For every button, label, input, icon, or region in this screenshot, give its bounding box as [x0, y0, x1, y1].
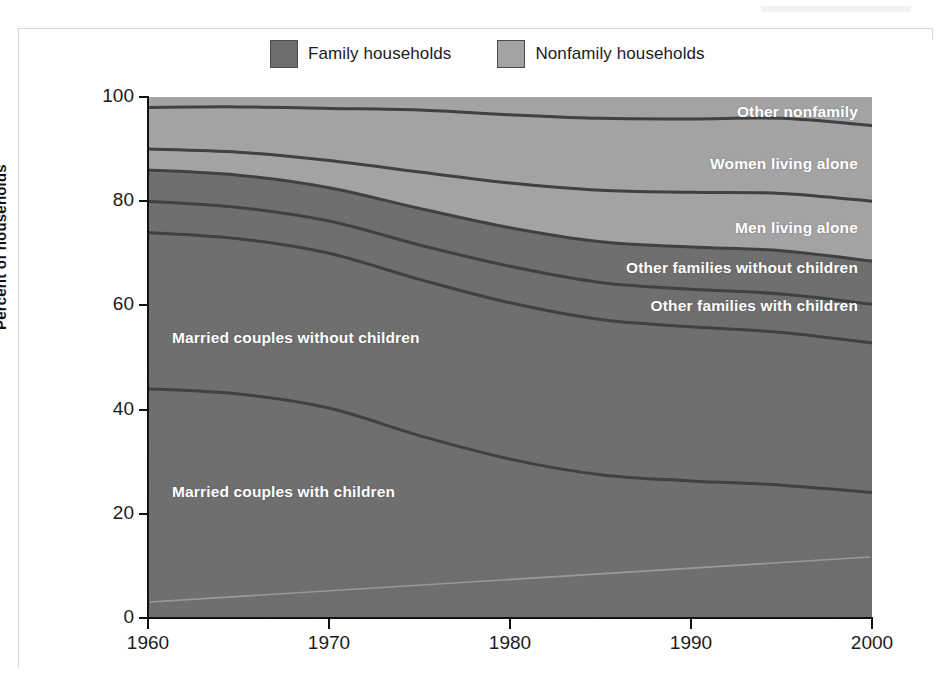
y-tick-80 [139, 200, 148, 202]
y-tick-20 [139, 513, 148, 515]
y-tick-label-100: 100 [82, 86, 134, 105]
label-women-living-alone: Women living alone [710, 155, 858, 173]
legend-label-family-households: Family households [308, 44, 451, 64]
y-tick-label-80: 80 [82, 190, 134, 209]
label-men-living-alone: Men living alone [735, 219, 858, 237]
x-tick-1960 [147, 619, 149, 629]
chart-plot-area [148, 97, 872, 618]
label-married-couples-without-children: Married couples without children [172, 329, 420, 347]
legend-item-nonfamily-households: Nonfamily households [497, 40, 704, 68]
x-tick-1980 [509, 619, 511, 629]
y-axis-title: Percent of households [0, 164, 9, 330]
scan-noise-overlay [148, 97, 872, 618]
label-other-families-with-children: Other families with children [651, 297, 858, 315]
y-tick-label-60: 60 [82, 294, 134, 313]
nonfamily-households-swatch [497, 40, 525, 68]
x-tick-label-2000: 2000 [851, 632, 893, 654]
x-tick-label-1960: 1960 [127, 632, 169, 654]
scan-artifact [761, 6, 911, 12]
y-axis-line [147, 96, 149, 619]
legend-label-nonfamily-households: Nonfamily households [535, 44, 704, 64]
scan-edge-left [18, 28, 19, 668]
y-tick-label-40: 40 [82, 399, 134, 418]
x-tick-2000 [871, 619, 873, 629]
stacked-area-svg [148, 97, 872, 618]
x-tick-label-1970: 1970 [308, 632, 350, 654]
y-tick-60 [139, 304, 148, 306]
y-tick-40 [139, 409, 148, 411]
scan-edge-top [18, 28, 932, 29]
y-tick-label-0: 0 [82, 607, 134, 626]
chart-legend: Family households Nonfamily households [270, 40, 705, 68]
figure-root: Family households Nonfamily households 0… [0, 0, 951, 685]
y-tick-100 [139, 96, 148, 98]
label-other-families-without-children: Other families without children [626, 259, 858, 277]
x-tick-label-1990: 1990 [670, 632, 712, 654]
scan-edge-right [932, 28, 933, 40]
y-tick-label-20: 20 [82, 503, 134, 522]
x-tick-1970 [328, 619, 330, 629]
x-tick-label-1980: 1980 [489, 632, 531, 654]
legend-item-family-households: Family households [270, 40, 451, 68]
label-other-nonfamily: Other nonfamily [737, 103, 858, 121]
x-tick-1990 [690, 619, 692, 629]
label-married-couples-with-children: Married couples with children [172, 483, 395, 501]
family-households-swatch [270, 40, 298, 68]
